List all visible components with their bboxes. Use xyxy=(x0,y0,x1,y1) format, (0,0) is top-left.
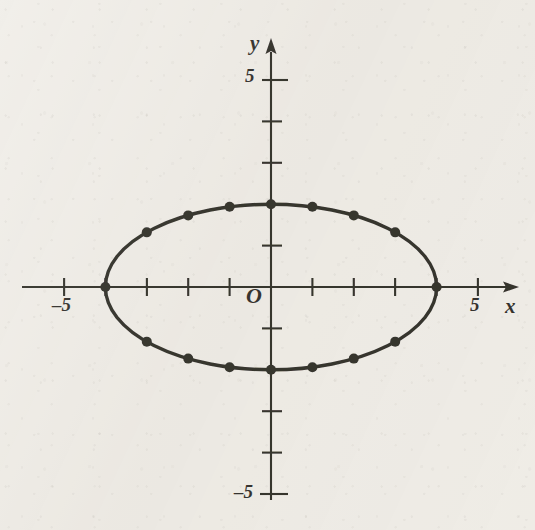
coordinate-plane-plot xyxy=(0,0,535,530)
data-point-marker xyxy=(266,365,276,375)
data-point-marker xyxy=(142,337,152,347)
data-point-marker xyxy=(307,362,317,372)
data-point-marker xyxy=(225,362,235,372)
data-point-marker xyxy=(432,282,442,292)
origin-label: O xyxy=(246,285,262,307)
x-tick-label--5: –5 xyxy=(52,295,71,314)
data-point-marker xyxy=(349,354,359,364)
y-tick-label--5: –5 xyxy=(234,482,253,501)
data-point-marker xyxy=(142,227,152,237)
y-tick-label-5: 5 xyxy=(245,66,255,85)
data-point-marker xyxy=(349,210,359,220)
x-axis-label: x xyxy=(505,296,516,317)
data-point-marker xyxy=(225,202,235,212)
data-point-marker xyxy=(390,337,400,347)
y-axis-label: y xyxy=(250,33,259,54)
data-point-marker xyxy=(390,227,400,237)
x-tick-label-5: 5 xyxy=(470,295,480,314)
figure-canvas: y x O 5 –5 5 –5 xyxy=(0,0,535,530)
y-axis xyxy=(266,38,277,500)
data-point-marker xyxy=(100,282,110,292)
data-point-marker xyxy=(266,199,276,209)
data-point-marker xyxy=(183,210,193,220)
data-point-marker xyxy=(183,354,193,364)
y-axis-arrowhead-icon xyxy=(266,38,277,54)
data-point-marker xyxy=(307,202,317,212)
